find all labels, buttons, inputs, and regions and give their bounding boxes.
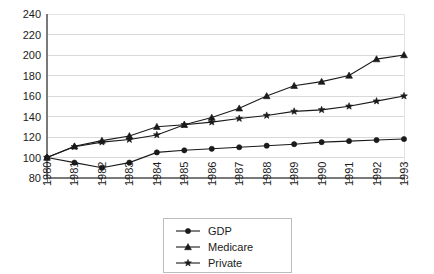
series-group xyxy=(44,52,408,171)
chart-legend: GDPMedicarePrivate xyxy=(163,218,291,272)
data-point-gdp xyxy=(264,143,269,148)
x-axis-tick-label: 1986 xyxy=(206,162,218,186)
data-point-gdp xyxy=(319,140,324,145)
data-point-gdp xyxy=(99,165,104,170)
legend-item-medicare[interactable]: Medicare xyxy=(176,241,253,253)
legend-label: Medicare xyxy=(208,241,253,253)
y-axis-tick-labels: 80100120140160180200220240 xyxy=(23,8,41,184)
x-axis-tick-label: 1993 xyxy=(398,162,410,186)
x-axis-tick-label: 1992 xyxy=(371,162,383,186)
legend-marker-circle xyxy=(185,228,190,233)
data-point-private xyxy=(291,108,298,115)
data-point-gdp xyxy=(374,137,379,142)
data-point-gdp xyxy=(154,150,159,155)
x-axis-tick-label: 1984 xyxy=(151,162,163,186)
legend-label: Private xyxy=(208,257,242,269)
x-axis-tick-label: 1985 xyxy=(178,162,190,186)
data-point-private xyxy=(346,103,353,110)
legend-item-gdp[interactable]: GDP xyxy=(176,225,232,237)
legend-marker-star xyxy=(185,259,192,266)
x-axis-tick-label: 1990 xyxy=(316,162,328,186)
data-point-private xyxy=(263,112,270,119)
x-axis-tick-label: 1980 xyxy=(41,162,53,186)
y-axis-tick-label: 220 xyxy=(23,29,41,41)
legend-item-private[interactable]: Private xyxy=(176,257,242,269)
data-point-private xyxy=(99,139,106,146)
data-point-gdp xyxy=(72,160,77,165)
plot-gridlines xyxy=(47,14,404,178)
y-axis-tick-label: 160 xyxy=(23,90,41,102)
chart-container: 80100120140160180200220240 1980198119821… xyxy=(0,0,434,274)
y-axis-tick-label: 80 xyxy=(29,172,41,184)
x-axis-tick-label: 1991 xyxy=(343,162,355,186)
y-axis-tick-label: 140 xyxy=(23,111,41,123)
data-point-gdp xyxy=(127,160,132,165)
data-point-gdp xyxy=(292,142,297,147)
y-axis-tick-label: 180 xyxy=(23,70,41,82)
data-point-gdp xyxy=(346,139,351,144)
data-point-private xyxy=(236,115,243,122)
data-point-medicare xyxy=(236,105,243,111)
data-point-private xyxy=(318,106,325,113)
line-chart: 80100120140160180200220240 1980198119821… xyxy=(0,0,434,274)
data-point-gdp xyxy=(401,136,406,141)
y-axis-tick-label: 200 xyxy=(23,49,41,61)
data-point-gdp xyxy=(209,146,214,151)
x-axis-tick-labels: 1980198119821983198419851986198719881989… xyxy=(41,162,410,186)
x-axis-tick-label: 1988 xyxy=(261,162,273,186)
y-axis-tick-label: 240 xyxy=(23,8,41,20)
data-point-gdp xyxy=(237,145,242,150)
y-axis-tick-label: 100 xyxy=(23,152,41,164)
data-point-private xyxy=(373,98,380,105)
series-private xyxy=(44,92,408,160)
legend-label: GDP xyxy=(208,225,232,237)
x-axis-tick-label: 1987 xyxy=(233,162,245,186)
data-point-gdp xyxy=(182,148,187,153)
y-axis-tick-label: 120 xyxy=(23,131,41,143)
x-axis-tick-label: 1989 xyxy=(288,162,300,186)
